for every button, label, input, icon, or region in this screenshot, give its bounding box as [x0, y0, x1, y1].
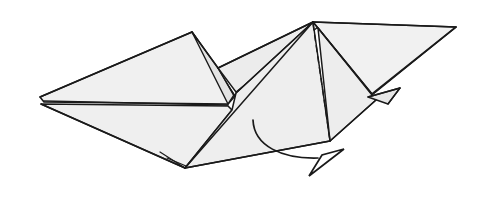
origami-figure-canvas — [0, 0, 486, 212]
origami-diagram — [0, 0, 486, 212]
